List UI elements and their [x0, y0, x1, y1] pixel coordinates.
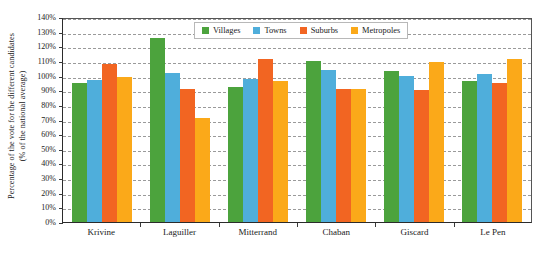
- legend-item[interactable]: Metropoles: [351, 26, 400, 35]
- y-axis-tick-mark: [59, 194, 63, 195]
- legend-label: Metropoles: [362, 26, 400, 35]
- bar[interactable]: [351, 89, 366, 222]
- bar[interactable]: [258, 59, 273, 222]
- bar[interactable]: [507, 59, 522, 222]
- bar[interactable]: [399, 76, 414, 222]
- y-axis-tick-labels: 0%10%20%30%40%50%60%70%80%90%100%110%120…: [26, 18, 59, 223]
- legend-item[interactable]: Villages: [202, 26, 240, 35]
- bar-group: [219, 19, 297, 222]
- bar[interactable]: [429, 62, 444, 222]
- bar[interactable]: [243, 79, 258, 223]
- y-axis-tick-label: 50%: [41, 146, 56, 154]
- y-axis-tick-label: 60%: [41, 131, 56, 139]
- bar[interactable]: [336, 89, 351, 222]
- legend-swatch-icon: [351, 27, 358, 34]
- legend-swatch-icon: [300, 27, 307, 34]
- x-axis-tick-mark: [219, 223, 220, 227]
- y-axis-tick-mark: [59, 150, 63, 151]
- x-axis-tick-label: Giscard: [375, 226, 453, 238]
- y-axis-tick-mark: [59, 179, 63, 180]
- legend-item[interactable]: Towns: [253, 26, 286, 35]
- y-axis-tick-label: 70%: [41, 117, 56, 125]
- x-axis-tick-mark: [454, 223, 455, 227]
- y-axis-title-line-1: Percentage of the vote for the different…: [6, 33, 17, 199]
- bar[interactable]: [72, 83, 87, 222]
- y-axis-tick-label: 100%: [37, 73, 56, 81]
- bar[interactable]: [87, 80, 102, 222]
- y-axis-tick-mark: [59, 33, 63, 34]
- y-axis-tick-label: 130%: [37, 29, 56, 37]
- x-axis-tick-label: Le Pen: [454, 226, 532, 238]
- bar-group: [297, 19, 375, 222]
- legend-label: Towns: [264, 26, 286, 35]
- bar[interactable]: [165, 73, 180, 222]
- bar[interactable]: [150, 38, 165, 223]
- bar-group: [375, 19, 453, 222]
- y-axis-tick-label: 30%: [41, 175, 56, 183]
- bar[interactable]: [477, 74, 492, 222]
- y-axis-tick-label: 90%: [41, 87, 56, 95]
- bar[interactable]: [306, 61, 321, 222]
- y-axis-tick-mark: [59, 77, 63, 78]
- y-axis-tick-label: 0%: [45, 219, 56, 227]
- y-axis-tick-label: 120%: [37, 43, 56, 51]
- bar-chart: Percentage of the vote for the different…: [0, 0, 541, 256]
- y-axis-tick-mark: [59, 121, 63, 122]
- x-axis-tick-label: Mitterrand: [219, 226, 297, 238]
- legend-swatch-icon: [202, 27, 209, 34]
- bar-group: [453, 19, 531, 222]
- bar[interactable]: [117, 77, 132, 222]
- legend-item[interactable]: Suburbs: [300, 26, 338, 35]
- y-axis-tick-label: 80%: [41, 102, 56, 110]
- y-axis-tick-label: 10%: [41, 204, 56, 212]
- legend-label: Suburbs: [311, 26, 338, 35]
- x-axis-tick-label: Chaban: [297, 226, 375, 238]
- bar[interactable]: [273, 81, 288, 222]
- bar-group: [141, 19, 219, 222]
- x-axis-tick-mark: [297, 223, 298, 227]
- bar[interactable]: [102, 64, 117, 222]
- y-axis-tick-mark: [59, 91, 63, 92]
- bar[interactable]: [321, 70, 336, 222]
- bar[interactable]: [228, 87, 243, 222]
- legend-swatch-icon: [253, 27, 260, 34]
- y-axis-tick-mark: [59, 106, 63, 107]
- bar[interactable]: [414, 90, 429, 222]
- bar[interactable]: [462, 81, 477, 222]
- y-axis-tick-mark: [59, 164, 63, 165]
- y-axis-tick-label: 140%: [37, 14, 56, 22]
- chart-legend: VillagesTownsSuburbsMetropoles: [194, 22, 408, 39]
- plot-area: [62, 18, 532, 223]
- y-axis-tick-mark: [59, 208, 63, 209]
- y-axis-tick-label: 40%: [41, 160, 56, 168]
- y-axis-tick-label: 110%: [38, 58, 56, 66]
- y-axis-tick-label: 20%: [41, 190, 56, 198]
- y-axis-tick-mark: [59, 223, 63, 224]
- x-axis-tick-mark: [140, 223, 141, 227]
- x-axis-tick-labels: KrivineLaguillerMitterrandChabanGiscardL…: [62, 226, 532, 238]
- x-axis-tick-mark: [375, 223, 376, 227]
- y-axis-tick-mark: [59, 47, 63, 48]
- bar[interactable]: [492, 83, 507, 222]
- y-axis-tick-mark: [59, 18, 63, 19]
- bar[interactable]: [195, 118, 210, 222]
- y-axis-tick-mark: [59, 135, 63, 136]
- bar[interactable]: [180, 89, 195, 222]
- legend-label: Villages: [213, 26, 240, 35]
- x-axis-tick-label: Laguiller: [140, 226, 218, 238]
- bar-group: [63, 19, 141, 222]
- y-axis-tick-mark: [59, 62, 63, 63]
- x-axis-tick-label: Krivine: [62, 226, 140, 238]
- bar-groups: [63, 19, 531, 222]
- bar[interactable]: [384, 71, 399, 222]
